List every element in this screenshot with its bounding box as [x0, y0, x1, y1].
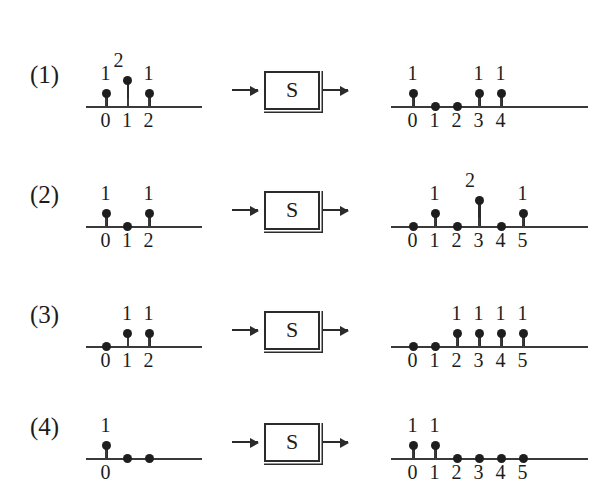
- sample-value-label: 1: [474, 303, 484, 323]
- sample-value-label: 1: [122, 303, 132, 323]
- row-index-label: (4): [30, 414, 59, 439]
- axis-line: [391, 226, 588, 228]
- output-stem-plot: 0112131415: [385, 258, 600, 378]
- output-arrow-icon: [322, 329, 348, 331]
- axis-line: [86, 226, 202, 228]
- sample-index-label: 4: [496, 350, 506, 370]
- input-arrow-icon: [232, 209, 258, 211]
- output-arrow-icon: [322, 441, 348, 443]
- sample-index-label: 0: [408, 110, 418, 130]
- stem-head-dot: [102, 209, 111, 218]
- axis-line: [86, 106, 202, 108]
- sample-index-label: 0: [101, 462, 111, 480]
- sample-index-label: 2: [452, 462, 462, 480]
- sample-index-label: 3: [474, 230, 484, 250]
- system-box-label: S: [286, 431, 298, 453]
- stem-head-dot: [145, 329, 154, 338]
- system-block-group: S: [232, 18, 382, 138]
- axis-tick: [148, 338, 150, 347]
- sample-value-label: 1: [474, 63, 484, 83]
- sample-value-label: 1: [496, 303, 506, 323]
- system-box: S: [264, 311, 320, 350]
- stem-head-dot: [123, 76, 132, 85]
- sample-index-label: 4: [496, 462, 506, 480]
- stem-head-dot: [145, 89, 154, 98]
- sample-value-label: 2: [114, 50, 124, 70]
- axis-tick: [434, 450, 436, 459]
- signal-pair-row: (4)10S10112345: [0, 370, 611, 480]
- system-box: S: [264, 423, 320, 462]
- system-box: S: [264, 191, 320, 230]
- sample-index-label: 0: [101, 230, 111, 250]
- sample-value-label: 1: [144, 183, 154, 203]
- axis-tick: [434, 218, 436, 227]
- sample-value-label: 1: [430, 415, 440, 435]
- output-arrow-icon: [322, 209, 348, 211]
- sample-value-label: 1: [408, 63, 418, 83]
- sample-index-label: 2: [144, 230, 154, 250]
- axis-tick: [148, 218, 150, 227]
- axis-tick: [456, 338, 458, 347]
- sample-index-label: 0: [408, 230, 418, 250]
- stem-head-dot: [453, 329, 462, 338]
- sample-index-label: 3: [474, 462, 484, 480]
- axis-tick: [127, 98, 129, 107]
- stem-head-dot: [102, 89, 111, 98]
- sample-value-label: 1: [144, 303, 154, 323]
- sample-index-label: 5: [518, 462, 528, 480]
- row-index-label: (3): [30, 302, 59, 327]
- sample-index-label: 2: [452, 350, 462, 370]
- axis-tick: [478, 338, 480, 347]
- sample-index-label: 1: [122, 230, 132, 250]
- sample-index-label: 3: [474, 350, 484, 370]
- sample-index-label: 1: [430, 462, 440, 480]
- stem-head-dot: [409, 441, 418, 450]
- sample-index-label: 4: [496, 230, 506, 250]
- stem-head-dot: [519, 329, 528, 338]
- sample-value-label: 1: [452, 303, 462, 323]
- axis-tick: [105, 450, 107, 459]
- system-box-label: S: [286, 199, 298, 221]
- sample-index-label: 2: [452, 230, 462, 250]
- sample-index-label: 1: [430, 230, 440, 250]
- sample-index-label: 0: [101, 110, 111, 130]
- sample-value-label: 1: [101, 183, 111, 203]
- stem-head-dot: [145, 209, 154, 218]
- stem-head-dot: [497, 89, 506, 98]
- stem-head-dot: [497, 329, 506, 338]
- axis-tick: [500, 338, 502, 347]
- sample-value-label: 2: [465, 170, 475, 190]
- input-arrow-icon: [232, 329, 258, 331]
- system-box-label: S: [286, 79, 298, 101]
- sample-value-label: 1: [408, 415, 418, 435]
- sample-index-label: 2: [452, 110, 462, 130]
- input-stem-plot: 102112: [70, 18, 220, 138]
- stem-head-dot: [431, 441, 440, 450]
- axis-tick: [105, 218, 107, 227]
- sample-index-label: 0: [408, 350, 418, 370]
- input-stem-plot: 01112: [70, 258, 220, 378]
- signal-pair-row: (1)102112S10121314: [0, 18, 611, 138]
- zero-sample-dot: [145, 454, 154, 463]
- axis-tick: [105, 98, 107, 107]
- stem-head-dot: [475, 89, 484, 98]
- sample-value-label: 1: [518, 303, 528, 323]
- axis-line: [391, 106, 588, 108]
- stem-head-dot: [431, 209, 440, 218]
- axis-tick: [127, 338, 129, 347]
- stem-head-dot: [519, 209, 528, 218]
- sample-index-label: 0: [408, 462, 418, 480]
- sample-index-label: 4: [496, 110, 506, 130]
- system-box: S: [264, 71, 320, 110]
- axis-line: [391, 458, 588, 460]
- stem-head-dot: [475, 196, 484, 205]
- sample-index-label: 1: [122, 110, 132, 130]
- axis-tick: [500, 98, 502, 107]
- output-stem-plot: 10121314: [385, 18, 600, 138]
- sample-index-label: 2: [144, 110, 154, 130]
- axis-tick: [412, 450, 414, 459]
- input-arrow-icon: [232, 441, 258, 443]
- input-stem-plot: 10112: [70, 138, 220, 258]
- input-arrow-icon: [232, 89, 258, 91]
- sample-value-label: 1: [144, 63, 154, 83]
